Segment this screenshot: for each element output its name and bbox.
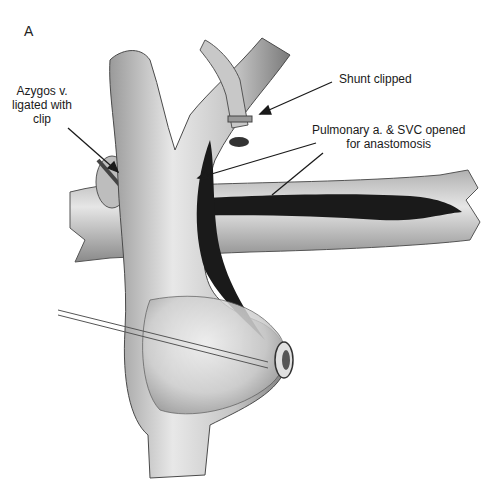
label-line: Pulmonary a. & SVC opened [312, 123, 465, 137]
panel-letter: A [24, 23, 33, 39]
label-azygos: Azygos v. ligated with clip [12, 84, 72, 126]
label-line: clip [12, 112, 72, 126]
label-shunt-clipped: Shunt clipped [339, 72, 412, 86]
label-line: for anastomosis [312, 137, 465, 151]
label-pulmonary-svc: Pulmonary a. & SVC opened for anastomosi… [312, 123, 465, 151]
anatomy-drawing [0, 0, 494, 493]
label-line: Azygos v. [12, 84, 72, 98]
shunt-clip [228, 116, 252, 122]
label-line: ligated with [12, 98, 72, 112]
surgical-illustration: A Azygos v. ligated with clip Shunt clip… [0, 0, 494, 493]
superior-vena-cava [110, 38, 290, 478]
